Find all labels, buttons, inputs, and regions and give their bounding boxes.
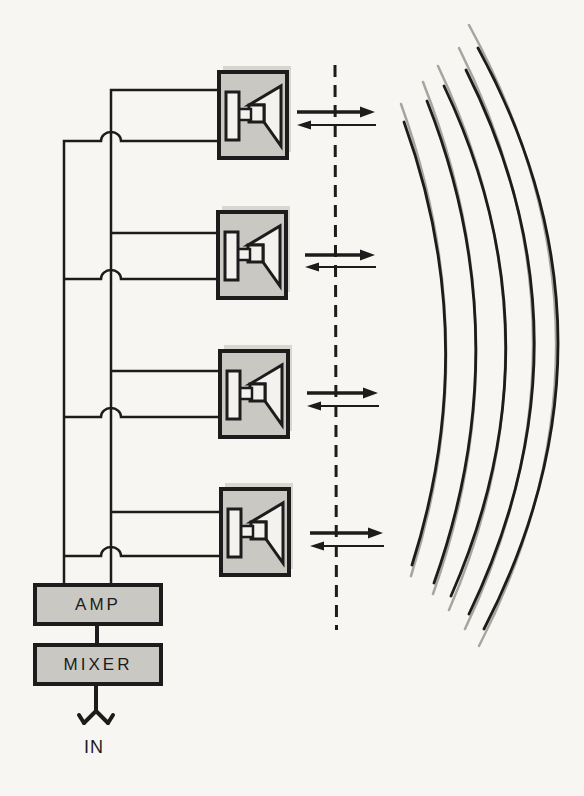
wavefront-arc-2 bbox=[427, 101, 476, 583]
wavefront-arc-2-shadow bbox=[423, 82, 476, 594]
mixer-box: MIXER bbox=[33, 643, 163, 686]
feed-network bbox=[64, 90, 222, 584]
right-arrow-head bbox=[360, 107, 375, 118]
amp-label: AMP bbox=[75, 595, 121, 615]
arrow-pair-2 bbox=[305, 250, 376, 272]
wavefront-arcs bbox=[401, 25, 558, 646]
transducer-box-2 bbox=[218, 206, 290, 298]
left-arrow-head bbox=[297, 121, 311, 130]
wavefront-arc-3-shadow bbox=[438, 66, 505, 610]
element-4-lower-wire bbox=[64, 547, 222, 556]
mixer-label: MIXER bbox=[64, 655, 133, 675]
right-arrow-head bbox=[368, 528, 383, 539]
input-label: IN bbox=[72, 737, 116, 758]
transducer-box-4 bbox=[221, 483, 293, 575]
bus-line-left bbox=[64, 132, 219, 584]
arrow-pair-4 bbox=[310, 528, 384, 551]
left-arrow-head bbox=[310, 542, 324, 551]
arrow-pairs bbox=[297, 107, 384, 551]
transducer-box-1 bbox=[219, 66, 291, 158]
wavefront-arc-1-shadow bbox=[401, 104, 446, 576]
transducer-box-3 bbox=[220, 345, 292, 437]
right-arrow-head bbox=[363, 388, 378, 399]
element-3-lower-wire bbox=[64, 408, 221, 417]
amp-box: AMP bbox=[33, 583, 163, 626]
left-arrow-head bbox=[305, 263, 319, 272]
diagram-canvas: AMP MIXER IN bbox=[0, 0, 584, 796]
arrow-pair-3 bbox=[307, 388, 379, 411]
element-2-lower-wire bbox=[64, 270, 219, 279]
bus-line-right bbox=[111, 90, 219, 584]
right-arrow-head bbox=[360, 250, 375, 261]
left-arrow-head bbox=[307, 402, 321, 411]
wavefront-arc-5 bbox=[478, 48, 558, 629]
wavefront-arc-1 bbox=[404, 122, 446, 565]
antenna-input-icon bbox=[79, 711, 113, 723]
